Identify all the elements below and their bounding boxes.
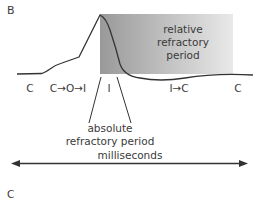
panel-label-b: B [7,4,15,17]
relative-label-line2: refractory [157,36,209,48]
absolute-bracket-right-line [117,77,131,123]
state-label-c-right: C [234,82,241,94]
arrowhead-left-icon [11,160,20,167]
time-axis-label: milliseconds [98,149,163,161]
state-label-c-o-i: C→O→I [50,82,86,94]
absolute-bracket-left-line [89,77,101,123]
relative-label-line1: relative [163,23,203,35]
absolute-label-line1: absolute [87,122,132,134]
refractory-period-diagram: B relative refractory period C C→O→I I I… [0,0,253,201]
absolute-label-line2: refractory period [66,135,155,147]
state-label-i-c: I→C [169,82,188,94]
relative-label-line3: period [166,49,199,61]
panel-label-c: C [7,188,14,200]
state-label-i: I [107,82,110,94]
arrowhead-right-icon [239,160,248,167]
state-label-c-left: C [26,82,33,94]
